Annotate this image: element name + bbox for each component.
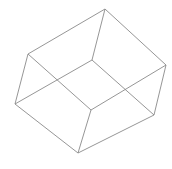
cube-diagram [0,0,172,169]
cube-edge-EH [15,104,78,153]
cube-edge-AC [105,9,166,65]
cube-edge-BF [28,54,91,110]
cube-edge-CG [154,65,166,115]
cube-edge-FH [78,110,91,153]
cube-edge-GH [78,115,154,153]
cube-edge-DG [92,60,154,115]
cube-edge-AB [28,9,105,54]
wireframe-cube [0,0,172,169]
cube-edge-AD [92,9,105,60]
cube-edge-DE [15,60,92,104]
cube-edge-CF [91,65,166,110]
cube-edge-BE [15,54,28,104]
